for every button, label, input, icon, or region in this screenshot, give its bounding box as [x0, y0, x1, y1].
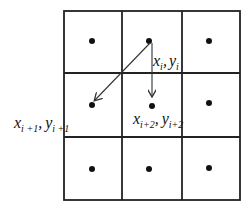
label-point-i: xi,yi — [152, 52, 179, 72]
arrows — [95, 43, 152, 100]
grid-diagram: xi,yi xi +1,yi +1 xi+2,yi+2 — [0, 0, 251, 213]
label-point-i1: xi +1,yi +1 — [13, 114, 69, 134]
label-point-i2: xi+2,yi+2 — [132, 110, 183, 130]
cell-center-dots — [89, 38, 212, 172]
